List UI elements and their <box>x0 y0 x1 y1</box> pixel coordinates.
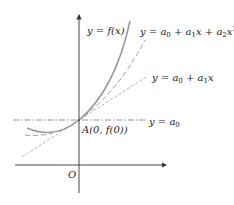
linear-approximation-line <box>22 77 146 157</box>
function-curve <box>27 21 130 133</box>
label-function: y = f(x) <box>87 26 125 36</box>
point-a <box>78 119 80 121</box>
label-quadratic: y = a0 + a1x + a2x2 <box>140 26 234 39</box>
label-linear: y = a0 + a1x <box>152 73 214 85</box>
quadratic-approximation-curve <box>25 40 145 135</box>
label-origin: O <box>68 170 76 180</box>
label-constant: y = a0 <box>149 117 180 129</box>
label-point-a: A(0, f(0)) <box>82 125 128 135</box>
